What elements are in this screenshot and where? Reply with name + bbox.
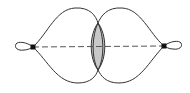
right-lobe-lower <box>98 46 164 83</box>
dashed-edge <box>33 46 164 47</box>
left-vertex <box>31 45 36 50</box>
left-lobe-lower <box>33 47 98 83</box>
left-self-loop <box>15 42 33 50</box>
right-vertex <box>162 44 167 49</box>
diagram-canvas <box>0 0 190 93</box>
right-self-loop <box>164 41 182 49</box>
